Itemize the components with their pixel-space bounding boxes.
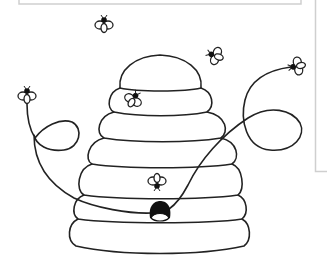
bee-icon [18,86,36,104]
hive-base-ring [69,219,249,254]
bee-icon [204,44,227,67]
beehive-illustration [0,0,327,264]
top-frame-box [19,0,301,4]
right-frame-line [316,0,327,172]
hive-ring-1 [109,88,212,116]
hive-entrance-hole [150,201,171,221]
bee-icon [287,56,307,77]
bee-icon [95,15,113,33]
right-bee-flight-trail [169,67,302,209]
page-frame [19,0,327,172]
bee-icon [148,174,166,192]
coloring-page: Line-art coloring page of a beehive with… [0,0,327,264]
left-bee-flight-trail [27,104,152,213]
hive-dome [120,55,201,91]
